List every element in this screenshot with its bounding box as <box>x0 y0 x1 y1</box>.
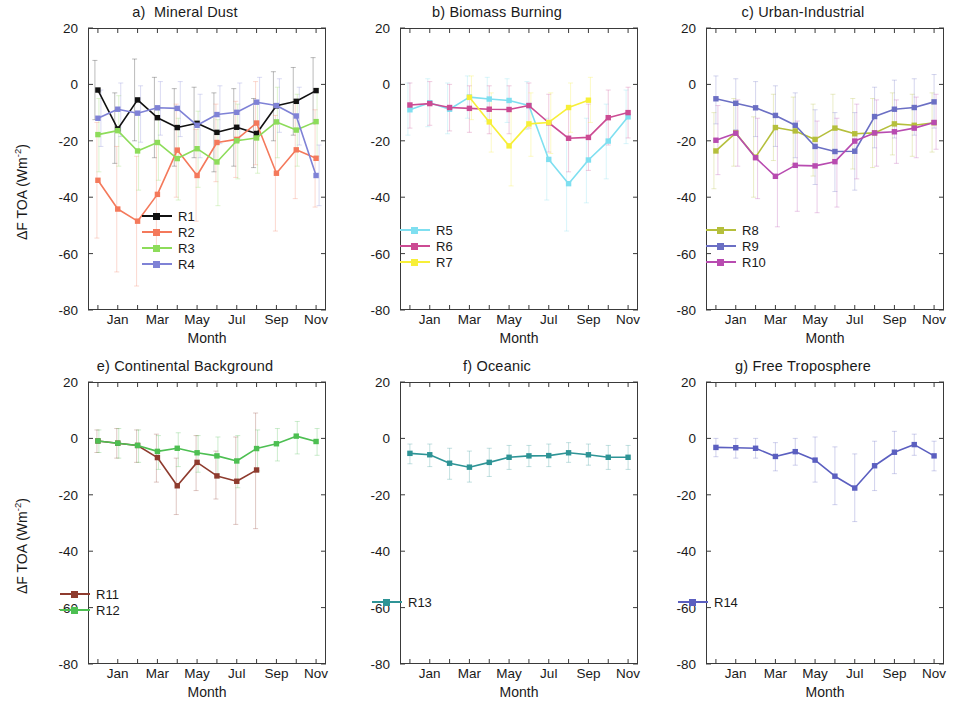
data-point <box>713 96 718 101</box>
data-point <box>234 138 239 143</box>
x-tick-label: Mar <box>458 312 481 327</box>
error-bars-R13 <box>407 443 630 482</box>
data-point <box>872 463 877 468</box>
panel-c: c) Urban-Industrial200-20-40-60-80JanMar… <box>648 0 955 354</box>
data-point <box>912 442 917 447</box>
data-point <box>115 206 120 211</box>
data-point <box>155 449 160 454</box>
data-point <box>313 88 318 93</box>
y-axis-title: ΔF TOA (Wm-2) <box>12 498 30 594</box>
legend-item-R14[interactable]: R14 <box>678 594 738 610</box>
data-point <box>294 127 299 132</box>
x-tick-label: Jul <box>846 666 863 681</box>
data-point <box>487 119 492 124</box>
x-tick-label: Jan <box>725 312 747 327</box>
data-point <box>812 163 817 168</box>
x-tick-label: Sep <box>264 312 288 327</box>
legend-item-R7[interactable]: R7 <box>400 254 453 270</box>
x-axis-title: Month <box>706 684 944 700</box>
legend-item-R13[interactable]: R13 <box>372 594 432 610</box>
data-point <box>135 110 140 115</box>
panel-title-g: g) Free Troposphere <box>648 358 955 374</box>
data-point <box>546 453 551 458</box>
legend-item-R9[interactable]: R9 <box>706 238 766 254</box>
legend-swatch-icon <box>400 224 430 236</box>
y-axis-tick-labels: 200-20-40-60-80 <box>342 28 396 310</box>
y-tick-label: -40 <box>676 190 696 205</box>
y-axis-tick-labels: 200-20-40-60-80 <box>30 28 84 310</box>
panel-title-e: e) Continental Background <box>30 358 340 374</box>
data-point <box>852 485 857 490</box>
legend-item-R4[interactable]: R4 <box>142 256 195 272</box>
data-point <box>912 125 917 130</box>
data-point <box>234 458 239 463</box>
data-point <box>506 107 511 112</box>
data-point <box>313 173 318 178</box>
data-point <box>254 120 259 125</box>
legend-label: R8 <box>742 224 759 237</box>
x-tick-label: Jul <box>228 666 245 681</box>
x-tick-label: Jul <box>846 312 863 327</box>
data-point <box>912 105 917 110</box>
legend-swatch-icon <box>142 258 172 270</box>
data-point <box>294 99 299 104</box>
data-point <box>214 473 219 478</box>
data-point <box>155 140 160 145</box>
legend-swatch-icon <box>142 242 172 254</box>
y-tick-label: 0 <box>382 431 390 446</box>
legend-item-R10[interactable]: R10 <box>706 254 766 270</box>
legend-item-R6[interactable]: R6 <box>400 238 453 254</box>
data-point <box>931 99 936 104</box>
y-tick-label: -80 <box>676 303 696 318</box>
legend-item-R2[interactable]: R2 <box>142 224 195 240</box>
x-tick-label: Mar <box>764 312 787 327</box>
panel-title-c: c) Urban-Industrial <box>648 4 955 20</box>
legend-f: R13 <box>372 594 432 610</box>
legend-item-R1[interactable]: R1 <box>142 208 195 224</box>
y-tick-label: -40 <box>370 190 390 205</box>
data-point <box>852 149 857 154</box>
data-point <box>773 454 778 459</box>
legend-label: R7 <box>436 256 453 269</box>
y-tick-label: -20 <box>676 487 696 502</box>
data-point <box>812 137 817 142</box>
data-point <box>254 467 259 472</box>
data-point <box>872 114 877 119</box>
y-tick-label: 20 <box>63 21 78 36</box>
y-tick-label: -40 <box>58 544 78 559</box>
legend-swatch-icon <box>372 596 402 608</box>
series-canvas <box>706 382 944 664</box>
x-tick-label: Nov <box>304 666 328 681</box>
series-R14 <box>713 442 937 491</box>
data-point <box>95 178 100 183</box>
data-point <box>773 174 778 179</box>
data-point <box>467 106 472 111</box>
y-axis-tick-labels: 200-20-40-60-80 <box>30 382 84 664</box>
data-point <box>606 455 611 460</box>
data-point <box>175 446 180 451</box>
error-bars-R4 <box>98 77 321 205</box>
data-point <box>892 129 897 134</box>
legend-g: R14 <box>678 594 738 610</box>
data-point <box>832 159 837 164</box>
panel-title-f: f) Oceanic <box>342 358 652 374</box>
legend-item-R12[interactable]: R12 <box>60 602 120 618</box>
legend-item-R8[interactable]: R8 <box>706 222 766 238</box>
legend-item-R5[interactable]: R5 <box>400 222 453 238</box>
data-point <box>175 106 180 111</box>
data-point <box>713 445 718 450</box>
legend-item-R11[interactable]: R11 <box>60 586 120 602</box>
x-tick-label: Mar <box>458 666 481 681</box>
panel-g: g) Free Troposphere200-20-40-60-80JanMar… <box>648 354 955 708</box>
data-point <box>175 483 180 488</box>
x-tick-label: Sep <box>264 666 288 681</box>
legend-swatch-icon <box>400 240 430 252</box>
y-tick-label: -20 <box>370 487 390 502</box>
series-R13 <box>407 450 631 470</box>
y-axis-tick-labels: 200-20-40-60-80 <box>648 382 702 664</box>
data-point <box>175 156 180 161</box>
x-tick-label: Sep <box>576 666 600 681</box>
legend-item-R3[interactable]: R3 <box>142 240 195 256</box>
data-point <box>274 103 279 108</box>
x-tick-label: Jul <box>540 312 557 327</box>
